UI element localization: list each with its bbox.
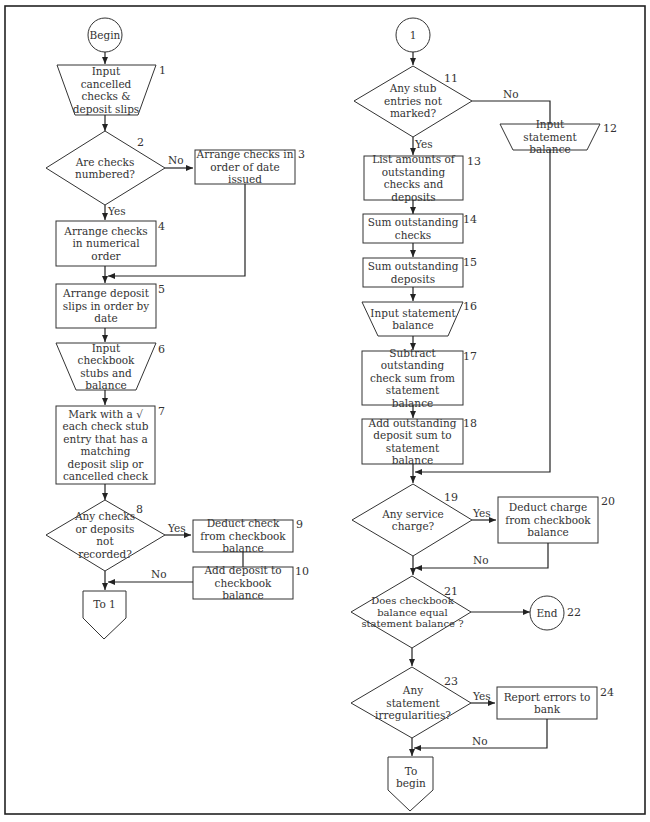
step-number-11: 11 [444,72,458,85]
edge-label-yes: Yes [108,205,126,217]
node-20-label: Deduct charge from checkbook balance [499,498,597,542]
node-18-label: Add outstanding deposit sum to statement… [364,420,461,463]
step-number-12: 12 [603,122,617,135]
step-number-10: 10 [295,565,309,578]
node-19-label: Any service charge? [382,500,444,540]
node-6-label: Input checkbook stubs and balance [66,345,146,388]
node-13-label: List amounts of outstanding checks and d… [365,157,462,199]
node-2-label: Are checks numbered? [74,153,136,183]
node-16-label: Input statement balance [370,303,456,335]
node-14-label: Sum outstanding checks [364,215,462,242]
node-24-label: Report errors to bank [498,688,596,718]
edge-label-yes: Yes [415,138,433,150]
step-number-18: 18 [463,417,477,430]
step-number-6: 6 [158,343,165,356]
node-8-label: Any checks or deposits not recorded? [74,508,136,562]
node-3-label: Arrange checks in order of date issued [196,151,294,183]
node-10-label: Add deposit to checkbook balance [194,568,292,598]
node-5-label: Arrange deposit slips in order by date [58,286,154,326]
edge-label-no: No [151,568,167,580]
step-number-8: 8 [136,503,143,516]
step-number-3: 3 [298,148,305,161]
node-4-label: Arrange checks in numerical order [58,223,154,264]
step-number-15: 15 [463,256,477,269]
edge-label-yes: Yes [473,690,491,702]
node-12-label: Input statement balance [508,125,592,149]
step-number-1: 1 [159,64,166,77]
node-15-label: Sum outstanding deposits [364,259,462,286]
node-9-label: Deduct check from checkbook balance [194,521,292,551]
step-number-2: 2 [137,136,144,149]
step-number-16: 16 [463,300,477,313]
edge-label-yes: Yes [168,522,186,534]
node-11-label: Any stub entries not marked? [380,80,446,122]
begin-label: Begin [88,27,122,43]
step-number-19: 19 [444,491,458,504]
to-1-label: To 1 [83,596,126,612]
step-number-5: 5 [158,283,165,296]
node-7-label: Mark with a √ each check stub entry that… [60,408,151,482]
edge-label-yes: Yes [473,507,491,519]
step-number-4: 4 [158,220,165,233]
step-number-24: 24 [600,686,614,699]
step-number-14: 14 [463,213,477,226]
node-23-label: Any statement irregularities? [378,683,448,723]
step-number-22: 22 [567,606,581,619]
edge-label-no: No [503,88,519,100]
step-number-21: 21 [444,585,458,598]
node-17-label: Subtract outstanding check sum from stat… [364,352,461,404]
step-number-13: 13 [467,155,481,168]
to-begin-label: To begin [392,762,430,792]
edge-label-no: No [168,154,184,166]
step-number-23: 23 [444,675,458,688]
connector-1-label: 1 [403,27,423,43]
edge-label-no: No [472,735,488,747]
step-number-9: 9 [296,518,303,531]
step-number-7: 7 [158,405,165,418]
step-number-20: 20 [601,495,615,508]
node-1-label: Input cancelled checks & deposit slips [70,68,142,112]
step-number-17: 17 [463,350,477,363]
node-22-label: End [533,605,561,621]
edge-label-no: No [473,554,489,566]
